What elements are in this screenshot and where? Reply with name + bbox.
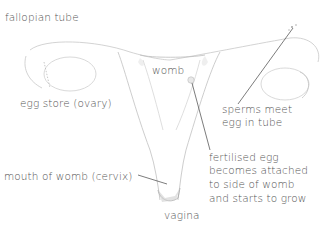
label-womb: womb <box>152 64 184 77</box>
label-sperms-meet-2: egg in tube <box>222 116 282 129</box>
sperms-meet-pointer <box>238 28 293 104</box>
left-ovary <box>44 57 96 91</box>
reproductive-diagram: fallopian tube egg store (ovary) womb sp… <box>0 0 332 227</box>
label-egg-store: egg store (ovary) <box>20 97 112 110</box>
fertilised-egg-pointer <box>192 83 210 150</box>
label-fertilised-3: to side of womb <box>209 178 295 191</box>
label-fertilised-1: fertilised egg <box>209 151 279 164</box>
label-vagina: vagina <box>164 209 200 222</box>
fertilised-egg-dot <box>188 77 194 83</box>
label-fallopian-tube: fallopian tube <box>5 11 79 24</box>
label-fertilised-2: becomes attached <box>209 164 308 177</box>
cervix-pointer <box>138 175 167 184</box>
right-tube-outline <box>170 38 319 62</box>
label-fertilised-4: and starts to grow <box>209 192 306 205</box>
left-tube-outline <box>30 42 170 60</box>
label-sperms-meet-1: sperms meet <box>222 103 292 116</box>
label-cervix: mouth of womb (cervix) <box>4 170 132 183</box>
